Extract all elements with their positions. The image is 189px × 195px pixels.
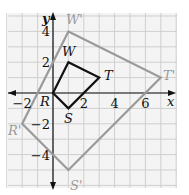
- vertex-label-w-prime: W': [66, 12, 83, 27]
- y-tick-label: 4: [42, 24, 50, 39]
- vertex-label-s: S: [64, 111, 73, 126]
- x-tick-label: 4: [110, 96, 118, 111]
- x-tick-label: 6: [141, 96, 149, 111]
- y-axis-label: y: [41, 11, 51, 26]
- coordinate-plane: −224642−2−4 x y R S T W R' S' T' W': [0, 0, 189, 195]
- vertex-label-r-prime: R': [7, 123, 21, 138]
- x-tick-label: −2: [13, 96, 32, 111]
- vertex-label-t: T: [104, 68, 114, 83]
- y-tick-label: −2: [31, 117, 50, 132]
- y-tick-label: 2: [42, 55, 50, 70]
- y-tick-label: −4: [31, 148, 50, 163]
- vertex-label-r: R: [39, 94, 50, 109]
- vertex-label-s-prime: S': [70, 178, 82, 193]
- vertex-label-t-prime: T': [163, 68, 175, 83]
- x-tick-label: 2: [80, 96, 88, 111]
- x-axis-label: x: [167, 94, 175, 109]
- vertex-label-w: W: [62, 44, 77, 59]
